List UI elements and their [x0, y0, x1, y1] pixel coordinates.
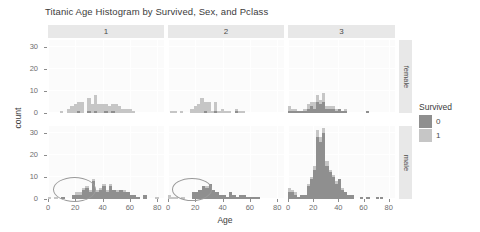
- facet-strip-col-2-label: 2: [224, 27, 228, 36]
- bar-segment-survived-1: [109, 184, 112, 186]
- histogram-bar: [241, 111, 244, 113]
- gridline-vertical: [48, 40, 49, 113]
- x-axis-tick-label: 20: [68, 203, 82, 212]
- annotation-ellipse-male-1: [53, 177, 96, 202]
- x-axis-tick-label: 0: [41, 203, 55, 212]
- histogram-bar: [143, 195, 146, 199]
- x-axis-tick-label: 80: [382, 203, 396, 212]
- histogram-bar: [60, 111, 63, 113]
- bar-segment-survived-0: [136, 197, 139, 199]
- x-axis-tick-label: 60: [243, 203, 257, 212]
- y-axis-tick-mark: [44, 91, 47, 92]
- gridline-horizontal: [288, 154, 395, 155]
- histogram-bar: [376, 197, 379, 199]
- bar-segment-survived-1: [92, 179, 95, 181]
- bar-segment-survived-1: [322, 93, 325, 102]
- legend-swatch-1: [419, 129, 432, 142]
- y-axis-tick-mark: [44, 113, 47, 114]
- gridline-vertical: [364, 126, 365, 199]
- histogram-bar: [351, 195, 354, 199]
- x-axis-tick-label: 0: [281, 203, 295, 212]
- y-axis-tick-mark: [44, 199, 47, 200]
- bar-segment-survived-1: [80, 102, 83, 113]
- bar-segment-survived-1: [322, 128, 325, 132]
- y-axis-tick-mark: [44, 69, 47, 70]
- bar-segment-survived-0: [380, 197, 383, 199]
- y-axis-tick-label: 20: [18, 150, 38, 159]
- bar-segment-survived-1: [214, 102, 217, 111]
- gridline-vertical: [130, 126, 131, 199]
- x-axis-tick-mark: [338, 199, 339, 202]
- bar-segment-survived-1: [341, 188, 344, 190]
- x-axis-tick-mark: [168, 199, 169, 202]
- gridline-vertical: [168, 126, 169, 199]
- gridline-vertical: [389, 126, 390, 199]
- histogram-bar: [344, 109, 347, 113]
- gridline-vertical: [250, 40, 251, 113]
- histogram-bar: [380, 197, 383, 199]
- gridline-vertical: [364, 40, 365, 113]
- panel-female-2: [168, 40, 284, 113]
- histogram-bar: [173, 111, 176, 113]
- facet-strip-row-female-label: female: [401, 65, 410, 88]
- bar-segment-survived-1: [325, 161, 328, 165]
- gridline-vertical: [277, 126, 278, 199]
- facet-strip-row-female: female: [399, 40, 412, 113]
- gridline-horizontal: [288, 132, 395, 133]
- x-axis-tick-mark: [389, 199, 390, 202]
- legend-label-0: 0: [436, 117, 440, 126]
- legend: Survived 0 1: [419, 102, 452, 143]
- x-axis-tick-label: 40: [216, 203, 230, 212]
- gridline-horizontal: [48, 90, 164, 91]
- legend-title: Survived: [419, 102, 452, 112]
- bar-segment-survived-0: [366, 197, 369, 199]
- legend-label-1: 1: [436, 131, 440, 140]
- x-axis-tick-label: 60: [357, 203, 371, 212]
- y-axis-tick-label: 20: [18, 64, 38, 73]
- gridline-vertical: [250, 126, 251, 199]
- bar-segment-survived-1: [344, 109, 347, 111]
- bar-segment-survived-0: [366, 111, 369, 113]
- bar-segment-survived-1: [332, 175, 335, 177]
- x-axis-tick-mark: [288, 199, 289, 202]
- bar-segment-survived-1: [329, 170, 332, 172]
- bar-segment-survived-0: [256, 197, 259, 199]
- gridline-horizontal: [168, 154, 284, 155]
- legend-swatch-0: [419, 115, 432, 128]
- gridline-horizontal: [48, 46, 164, 47]
- gridline-vertical: [389, 40, 390, 113]
- gridline-horizontal: [48, 68, 164, 69]
- bar-segment-survived-0: [344, 111, 347, 113]
- x-axis-tick-label: 40: [96, 203, 110, 212]
- chart-title: Titanic Age Histogram by Survived, Sex, …: [45, 6, 268, 17]
- bar-segment-survived-0: [376, 197, 379, 199]
- gridline-horizontal: [48, 132, 164, 133]
- histogram-bar: [366, 197, 369, 199]
- facet-strip-col-3-label: 3: [339, 27, 343, 36]
- x-axis-tick-mark: [364, 199, 365, 202]
- x-axis-tick-mark: [130, 199, 131, 202]
- facet-strip-col-2: 2: [168, 25, 284, 38]
- bar-segment-survived-1: [228, 111, 231, 113]
- histogram-bar: [80, 102, 83, 113]
- gridline-horizontal: [168, 132, 284, 133]
- legend-item-1[interactable]: 1: [419, 129, 452, 142]
- gridline-vertical: [157, 126, 158, 199]
- histogram-bar: [180, 111, 183, 113]
- gridline-horizontal: [288, 68, 395, 69]
- gridline-horizontal: [168, 90, 284, 91]
- y-axis-tick-mark: [44, 47, 47, 48]
- histogram-bar: [228, 111, 231, 113]
- x-axis-tick-mark: [157, 199, 158, 202]
- gridline-horizontal: [168, 176, 284, 177]
- y-axis-tick-label: 10: [18, 172, 38, 181]
- gridline-vertical: [195, 40, 196, 113]
- facet-strip-col-1: 1: [48, 25, 164, 38]
- gridline-horizontal: [288, 176, 395, 177]
- panel-female-3: [288, 40, 395, 113]
- gridline-horizontal: [168, 68, 284, 69]
- y-axis-tick-mark: [44, 177, 47, 178]
- x-axis-tick-mark: [277, 199, 278, 202]
- facet-strip-row-male: male: [399, 126, 412, 199]
- legend-item-0[interactable]: 0: [419, 115, 452, 128]
